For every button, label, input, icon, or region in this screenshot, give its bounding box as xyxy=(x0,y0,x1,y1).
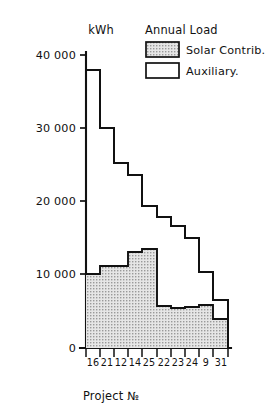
y-tick-label-40000: 40 000 xyxy=(36,49,76,62)
legend: Annual Load Solar Contrib. Auxiliary. xyxy=(145,23,265,78)
x-tick-label-2: 12 xyxy=(115,357,128,368)
x-tick-label-1: 21 xyxy=(101,357,114,368)
legend-item-solar: Solar Contrib. xyxy=(146,42,265,57)
x-tick-label-8: 9 xyxy=(203,357,209,368)
y-tick-label-10000: 10 000 xyxy=(36,268,76,281)
y-axis-ticks: 40 000 30 000 20 000 10 000 0 xyxy=(36,49,87,355)
legend-label-auxiliary: Auxiliary. xyxy=(186,65,239,78)
x-axis-labels: 16 21 12 14 25 22 23 24 9 31 xyxy=(87,357,228,368)
x-tick-label-6: 23 xyxy=(172,357,185,368)
x-axis-ticks xyxy=(86,348,228,357)
legend-item-auxiliary: Auxiliary. xyxy=(146,63,239,78)
y-tick-label-0: 0 xyxy=(69,342,76,355)
legend-swatch-solar xyxy=(146,42,179,57)
y-tick-label-20000: 20 000 xyxy=(36,195,76,208)
y-axis-unit-label: kWh xyxy=(88,23,114,37)
x-tick-label-9: 31 xyxy=(215,357,228,368)
x-tick-label-4: 25 xyxy=(143,357,156,368)
legend-title: Annual Load xyxy=(145,23,218,37)
x-tick-label-7: 24 xyxy=(186,357,199,368)
x-tick-label-0: 16 xyxy=(87,357,100,368)
legend-label-solar: Solar Contrib. xyxy=(186,44,265,57)
legend-swatch-auxiliary xyxy=(146,63,179,78)
x-tick-label-3: 14 xyxy=(129,357,142,368)
y-tick-label-30000: 30 000 xyxy=(36,122,76,135)
annual-load-step-chart: kWh Annual Load Solar Contrib. Auxiliary… xyxy=(0,0,265,420)
chart-root: kWh Annual Load Solar Contrib. Auxiliary… xyxy=(0,0,265,420)
x-axis-title: Project № xyxy=(83,389,139,403)
x-tick-label-5: 22 xyxy=(158,357,171,368)
